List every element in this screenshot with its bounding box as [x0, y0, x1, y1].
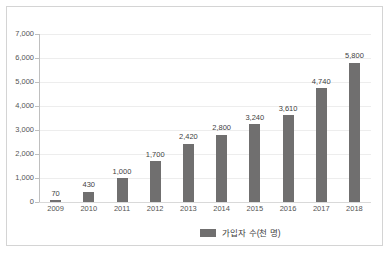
bar-value-label: 70	[36, 190, 76, 198]
bar[interactable]	[183, 144, 194, 202]
bar-value-label: 3,610	[268, 105, 308, 113]
bar[interactable]	[50, 200, 61, 202]
bar-slot: 1,700	[139, 34, 172, 202]
bar-value-label: 2,420	[168, 133, 208, 141]
bar[interactable]	[283, 115, 294, 202]
chart-container: 01,0002,0003,0004,0005,0006,0007,000 704…	[6, 6, 383, 246]
bar-value-label: 4,740	[301, 78, 341, 86]
x-axis-tick-label: 2017	[305, 205, 338, 213]
bar-slot: 70	[39, 34, 72, 202]
chart-legend: 가입자 수(천 명)	[7, 229, 384, 238]
x-axis-tick-label: 2012	[139, 205, 172, 213]
y-axis-tick-mark	[35, 106, 39, 107]
bar-slot: 4,740	[305, 34, 338, 202]
bar[interactable]	[316, 88, 327, 202]
x-axis-tick-label: 2011	[105, 205, 138, 213]
bar[interactable]	[83, 192, 94, 202]
bar[interactable]	[249, 124, 260, 202]
legend-swatch-icon	[200, 229, 216, 237]
bar[interactable]	[349, 63, 360, 202]
bar-slot: 2,800	[205, 34, 238, 202]
bar-slot: 430	[72, 34, 105, 202]
x-axis-tick-label: 2010	[72, 205, 105, 213]
bar-value-label: 1,700	[135, 151, 175, 159]
y-axis-tick-mark	[35, 154, 39, 155]
bar-value-label: 430	[69, 181, 109, 189]
bar[interactable]	[216, 135, 227, 202]
y-axis-tick-label: 0	[8, 198, 34, 206]
x-axis-tick-label: 2016	[271, 205, 304, 213]
bar-value-label: 5,800	[334, 52, 374, 60]
x-axis-tick-label: 2018	[338, 205, 371, 213]
bar-slot: 3,240	[238, 34, 271, 202]
x-axis-labels: 2009201020112012201320142015201620172018	[39, 205, 371, 213]
y-axis-tick-label: 6,000	[8, 54, 34, 62]
y-axis-tick-mark	[35, 34, 39, 35]
y-axis-labels: 01,0002,0003,0004,0005,0006,0007,000	[7, 34, 34, 202]
bar-series: 704301,0001,7002,4202,8003,2403,6104,740…	[39, 34, 371, 202]
x-axis-tick-label: 2009	[39, 205, 72, 213]
x-axis-tick-label: 2015	[238, 205, 271, 213]
y-axis-tick-mark	[35, 130, 39, 131]
y-axis-tick-mark	[35, 178, 39, 179]
y-axis-tick-label: 2,000	[8, 150, 34, 158]
y-axis-tick-label: 5,000	[8, 78, 34, 86]
y-axis-tick-mark	[35, 58, 39, 59]
bar-slot: 2,420	[172, 34, 205, 202]
gridline	[39, 202, 371, 203]
x-axis-tick-label: 2014	[205, 205, 238, 213]
bar[interactable]	[117, 178, 128, 202]
bar-slot: 1,000	[105, 34, 138, 202]
bar[interactable]	[150, 161, 161, 202]
bar-value-label: 3,240	[235, 114, 275, 122]
y-axis-tick-label: 4,000	[8, 102, 34, 110]
y-axis-tick-label: 1,000	[8, 174, 34, 182]
legend-label: 가입자 수(천 명)	[222, 229, 280, 238]
y-axis-tick-label: 3,000	[8, 126, 34, 134]
y-axis-tick-mark	[35, 202, 39, 203]
bar-value-label: 2,800	[202, 124, 242, 132]
bar-slot: 5,800	[338, 34, 371, 202]
bar-value-label: 1,000	[102, 168, 142, 176]
x-axis-tick-label: 2013	[172, 205, 205, 213]
bar-slot: 3,610	[271, 34, 304, 202]
y-axis-tick-label: 7,000	[8, 30, 34, 38]
y-axis-tick-mark	[35, 82, 39, 83]
